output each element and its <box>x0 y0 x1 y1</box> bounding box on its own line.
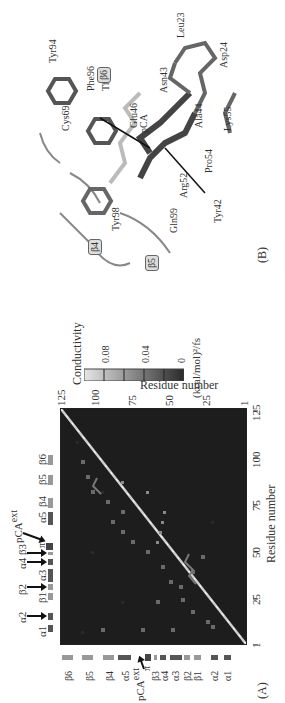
left-label-b5: β5 <box>84 671 95 681</box>
residue-asp24: Asp24 <box>218 42 229 68</box>
residue-pro54: Pro54 <box>203 149 214 173</box>
left-sse-b4 <box>103 655 114 660</box>
colorbar-tick-008: 0.08 <box>100 346 111 364</box>
sse-label-a4: α4 <box>16 558 28 569</box>
sse-label-b1: β1 <box>36 592 48 603</box>
residue-leu23: Leu23 <box>175 12 186 38</box>
x-axis-ticks <box>253 410 259 645</box>
arrow-pca-ext-top <box>23 532 44 541</box>
sse-label-b6: β6 <box>36 454 48 465</box>
residue-arg52: Arg52 <box>178 173 189 198</box>
sse-bar-b1 <box>48 593 53 600</box>
residue-cys69: Cys69 <box>60 105 71 131</box>
arrow-b3 <box>27 552 45 554</box>
left-sse-b5 <box>82 655 93 660</box>
sse-label-a3: α3 <box>36 570 48 581</box>
residue-glu46: Glu46 <box>128 103 139 128</box>
left-label-b6: β6 <box>63 671 74 681</box>
residue-lys55: Lys55 <box>222 107 233 131</box>
sse-bar-a5 <box>48 512 53 525</box>
sse-label-b5: β5 <box>36 474 48 485</box>
residue-tyr98: Tyr98 <box>110 207 121 231</box>
sse-bar-b5 <box>48 475 53 485</box>
sse-label-a1: α1 <box>36 626 48 637</box>
left-sse-b6 <box>62 655 73 660</box>
panel-a-label: (A) <box>255 682 270 699</box>
figure-frame: (A) <box>0 0 285 703</box>
left-sse-a5 <box>118 655 131 660</box>
sse-label-b4: β4 <box>36 496 48 507</box>
left-sse-a4 <box>160 655 166 660</box>
residue-asn43: Asn43 <box>158 67 169 93</box>
left-label-b3: β3 <box>150 671 161 681</box>
sse-label-a5: α5 <box>36 512 48 523</box>
x-tick-125: 125 <box>250 405 262 422</box>
x-tick-100: 100 <box>250 452 262 469</box>
residue-ala44: Ala44 <box>193 104 204 128</box>
residue-gln99: Gln99 <box>168 208 179 233</box>
panel-b-label: (B) <box>255 247 270 263</box>
sse-bar-pi <box>46 543 53 550</box>
colorbar-title: Conductivity <box>70 322 85 385</box>
residue-tyr42: Tyr42 <box>212 199 223 223</box>
colorbar-tick-0: 0 <box>176 358 187 363</box>
box-label-b5: β5 <box>145 255 159 271</box>
x-axis-label: Residue number <box>264 485 279 563</box>
left-label-b2: β2 <box>182 671 193 681</box>
left-label-b1: β1 <box>192 671 203 681</box>
arrow-a4 <box>27 561 45 563</box>
pca-ext-label-left: pCAext <box>130 668 146 701</box>
sse-bar-b6 <box>48 455 53 465</box>
colorbar-gradient <box>84 351 184 381</box>
y-tick-75: 75 <box>126 395 138 406</box>
left-sse-b1 <box>194 655 201 660</box>
sse-bar-b4 <box>48 498 53 508</box>
left-sse-a2 <box>211 655 218 660</box>
sse-bar-a4 <box>48 559 53 565</box>
y-tick-50: 50 <box>163 395 175 406</box>
left-label-b4: β4 <box>104 671 115 681</box>
arrow-b2 <box>27 586 45 588</box>
x-axis <box>245 410 250 645</box>
colorbar-unit: (kcal/mol)²/fs <box>190 338 202 398</box>
y-tick-1: 1 <box>238 401 250 407</box>
sse-bar-a1 <box>48 625 53 632</box>
arrow-a2 <box>27 615 45 617</box>
x-tick-25: 25 <box>250 594 262 605</box>
pca-ext-label-top: pCAext <box>8 510 24 543</box>
left-label-a1: α1 <box>222 671 233 681</box>
x-tick-1: 1 <box>250 643 262 649</box>
x-tick-75: 75 <box>250 500 262 511</box>
x-tick-50: 50 <box>250 547 262 558</box>
y-tick-100: 100 <box>89 390 101 407</box>
left-sse-b2 <box>184 655 190 660</box>
residue-tyr94: Tyr94 <box>47 39 58 63</box>
left-sse-a1 <box>224 655 231 660</box>
conductivity-heatmap <box>60 408 247 645</box>
sse-bar-a3 <box>48 569 53 582</box>
residue-pca: pCA <box>138 114 149 133</box>
left-label-a3: α3 <box>170 671 181 681</box>
left-sse-a3 <box>170 655 182 660</box>
residue-phe96: Phe96 <box>85 66 96 91</box>
colorbar-tick-004: 0.04 <box>140 346 151 364</box>
heatmap-graphic <box>61 409 246 644</box>
colorbar <box>84 351 184 381</box>
sse-bar-a2 <box>48 613 53 620</box>
sse-bar-b3 <box>48 552 53 555</box>
y-tick-125: 125 <box>55 390 67 407</box>
molecule-structure <box>0 0 240 283</box>
left-sse-b3 <box>154 655 157 660</box>
left-sse-pi <box>145 654 151 661</box>
sse-bar-b2 <box>48 584 53 590</box>
box-label-b4: β4 <box>88 239 102 255</box>
sse-label-a2: α2 <box>16 612 28 623</box>
left-label-a2: α2 <box>209 671 220 681</box>
box-label-b6: β6 <box>97 67 111 83</box>
